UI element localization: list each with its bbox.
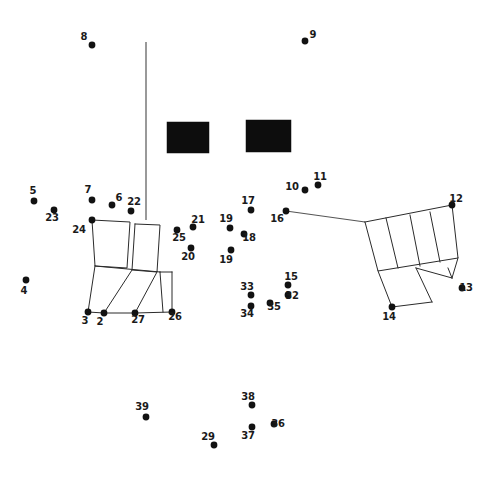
point-label-36: 36: [271, 418, 285, 429]
point-label-2: 2: [97, 316, 104, 327]
point-label-35: 35: [267, 301, 281, 312]
point-marker-19: [227, 225, 234, 232]
point-label-19: 19: [219, 213, 233, 224]
point-label-8: 8: [81, 31, 88, 42]
point-label-12: 12: [449, 193, 463, 204]
point-marker-9: [302, 38, 309, 45]
point-label-14: 14: [382, 311, 396, 322]
point-label-26: 26: [168, 311, 182, 322]
survey-point-36-34: 36: [271, 418, 285, 429]
point-marker-7: [89, 197, 96, 204]
point-label-5: 5: [30, 185, 37, 196]
point-label-11: 11: [313, 171, 327, 182]
point-label-37: 37: [241, 430, 255, 441]
point-label-39: 39: [135, 401, 149, 412]
point-label-7: 7: [85, 184, 92, 195]
point-label-9: 9: [310, 29, 317, 40]
point-label-22: 22: [127, 196, 141, 207]
point-marker-10: [302, 187, 309, 194]
point-label-18: 18: [242, 232, 256, 243]
point-marker-8: [89, 42, 96, 49]
point-marker-6: [109, 202, 116, 209]
survey-point-5-2: 5: [30, 185, 38, 204]
point-label-17: 17: [241, 195, 255, 206]
point-marker-24: [89, 217, 96, 224]
point-label-33: 33: [240, 281, 254, 292]
point-marker-15: [285, 282, 292, 289]
point-label-29: 29: [201, 431, 215, 442]
survey-point-18-14: 18: [241, 231, 256, 243]
point-label-19: 19: [219, 254, 233, 265]
point-label-6: 6: [116, 192, 123, 203]
point-label-13: 13: [459, 282, 473, 293]
point-label-32: 32: [285, 290, 299, 301]
point-label-23: 23: [45, 212, 59, 223]
point-label-38: 38: [241, 391, 255, 402]
point-label-15: 15: [284, 271, 298, 282]
point-label-27: 27: [131, 314, 145, 325]
point-marker-17: [248, 207, 255, 214]
point-label-24: 24: [72, 224, 86, 235]
survey-point-26-30: 26: [168, 309, 182, 322]
block-right: [246, 120, 291, 152]
point-label-3: 3: [82, 315, 89, 326]
block-left: [167, 122, 209, 153]
point-marker-14: [389, 304, 396, 311]
point-marker-4: [23, 277, 30, 284]
point-label-20: 20: [181, 251, 195, 262]
point-marker-22: [128, 208, 135, 215]
point-marker-33: [248, 292, 255, 299]
point-marker-29: [211, 442, 218, 449]
point-label-16: 16: [270, 213, 284, 224]
point-marker-38: [249, 402, 256, 409]
survey-point-13-20: 13: [459, 282, 473, 293]
point-label-25: 25: [172, 232, 186, 243]
survey-point-32-23: 32: [285, 290, 299, 301]
point-marker-19: [228, 247, 235, 254]
point-marker-11: [315, 182, 322, 189]
plan-canvas: 8952376224242521201719181910111612131415…: [0, 0, 499, 480]
point-label-10: 10: [285, 181, 299, 192]
point-label-34: 34: [240, 308, 254, 319]
point-label-21: 21: [191, 214, 205, 225]
point-label-4: 4: [21, 285, 28, 296]
point-marker-5: [31, 198, 38, 205]
survey-point-35-26: 35: [267, 300, 281, 312]
point-marker-39: [143, 414, 150, 421]
site-plan-figure: 8952376224242521201719181910111612131415…: [0, 0, 499, 480]
